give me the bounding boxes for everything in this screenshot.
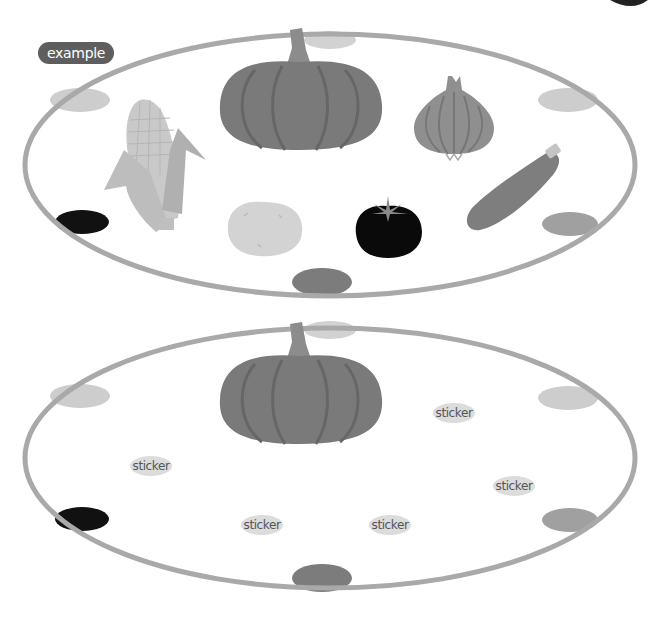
exercise-plate <box>25 321 635 592</box>
onion-icon <box>414 76 494 160</box>
sticker-slot[interactable]: sticker <box>241 515 283 535</box>
sticker-slot[interactable]: sticker <box>369 515 411 535</box>
corn-icon <box>104 100 206 233</box>
plate-dot-upper-right <box>538 88 598 112</box>
example-plate <box>25 28 635 296</box>
tomato-icon <box>356 196 422 258</box>
worksheet-canvas <box>0 0 659 621</box>
example-badge: example <box>38 42 114 64</box>
sticker-slot[interactable]: sticker <box>130 456 172 476</box>
plate-dot-bottom <box>292 268 352 296</box>
sticker-slot[interactable]: sticker <box>493 476 535 496</box>
corner-fragment-icon <box>610 0 648 6</box>
pumpkin-icon <box>220 322 382 444</box>
sticker-slot[interactable]: sticker <box>433 403 475 423</box>
pumpkin-icon <box>220 28 382 150</box>
vegetable-plate-worksheet: example sticker sticker sticker sticker … <box>0 0 659 621</box>
potato-icon <box>228 202 302 257</box>
